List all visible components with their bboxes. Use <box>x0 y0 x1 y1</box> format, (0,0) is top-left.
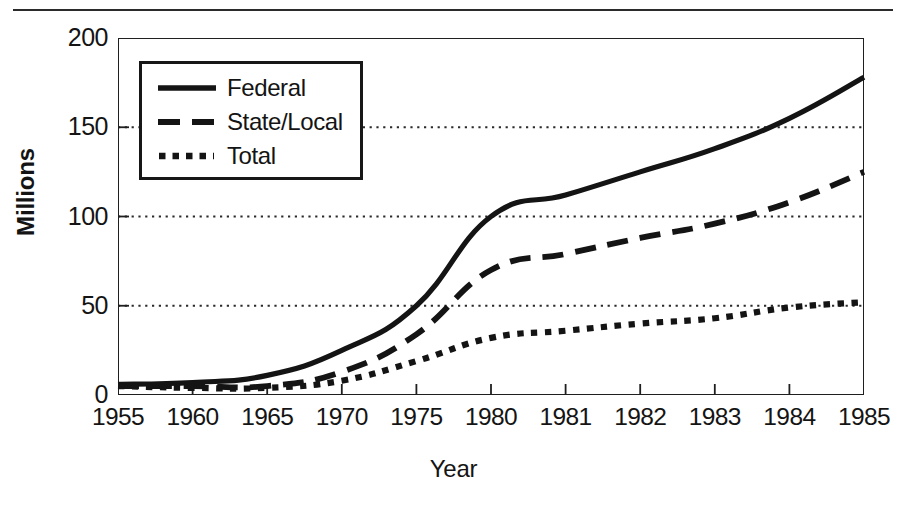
legend-item-state-local: State/Local <box>142 105 360 139</box>
figure-container: 050100150200 195519601965197019751980198… <box>0 0 907 508</box>
x-tick-label-text: 1975 <box>390 403 442 430</box>
y-tick-label-text: 150 <box>30 114 108 139</box>
y-axis-title: Millions <box>12 122 40 262</box>
series-line-total <box>118 302 864 388</box>
dotted-line-sample-icon <box>156 147 218 165</box>
x-tick-label-text: 1983 <box>689 403 741 430</box>
x-tick-label-text: 1970 <box>316 403 368 430</box>
solid-line-sample-icon <box>156 79 218 97</box>
x-tick-label: 1985 <box>819 404 907 434</box>
x-tick-label-text: 1985 <box>838 403 890 430</box>
x-tick-label-text: 1965 <box>241 403 293 430</box>
y-tick-label-text: 100 <box>30 204 108 229</box>
dashed-line-sample-icon <box>156 113 218 131</box>
legend-label-state-local: State/Local <box>227 110 343 134</box>
legend-label-federal: Federal <box>227 76 306 100</box>
y-tick-label: 50 <box>30 293 108 319</box>
legend-item-federal: Federal <box>142 71 360 105</box>
y-tick-label-text: 50 <box>30 293 108 318</box>
x-tick-label-text: 1980 <box>465 403 517 430</box>
y-tick-marks-group <box>118 127 129 306</box>
x-axis-title: Year <box>0 455 907 483</box>
y-tick-label: 200 <box>30 25 108 51</box>
x-tick-marks-group <box>193 384 790 395</box>
y-tick-label: 150 <box>30 114 108 140</box>
x-tick-label-text: 1960 <box>167 403 219 430</box>
legend-label-total: Total <box>227 144 276 168</box>
x-tick-label-text: 1982 <box>614 403 666 430</box>
series-line-state-local <box>118 172 864 388</box>
legend-item-total: Total <box>142 139 360 173</box>
x-tick-label-text: 1981 <box>540 403 592 430</box>
chart-legend: Federal State/Local Total <box>139 61 363 180</box>
y-tick-label-text: 200 <box>30 25 108 50</box>
x-tick-label-text: 1984 <box>763 403 815 430</box>
x-tick-label-text: 1955 <box>92 403 144 430</box>
y-tick-label: 100 <box>30 204 108 230</box>
